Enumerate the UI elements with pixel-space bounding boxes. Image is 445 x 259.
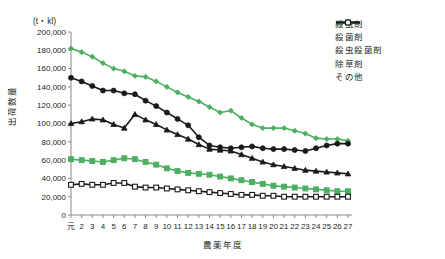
- data-point: [186, 123, 191, 128]
- x-tick-label: 7: [133, 222, 138, 231]
- data-point: [143, 98, 148, 103]
- data-point: [281, 125, 286, 130]
- x-tick-label: 11: [173, 222, 182, 231]
- data-point: [260, 146, 265, 151]
- data-point: [196, 171, 201, 176]
- data-point: [111, 181, 116, 186]
- x-tick-label: 13: [194, 222, 203, 231]
- data-point: [122, 91, 127, 96]
- data-point: [335, 189, 340, 194]
- data-point: [164, 110, 169, 115]
- y-tick-label: 100,000: [37, 119, 66, 128]
- x-tick-label: 4: [101, 222, 106, 231]
- data-point: [346, 189, 351, 194]
- series-除草剤: [69, 75, 351, 153]
- data-point: [250, 180, 255, 185]
- y-tick-label: 0: [62, 211, 67, 220]
- data-point: [132, 112, 138, 117]
- x-tick-label: 3: [90, 222, 95, 231]
- data-point: [239, 192, 244, 197]
- x-tick-label: 元: [67, 222, 75, 231]
- data-point: [79, 50, 84, 55]
- legend-label: 除草剤: [335, 57, 364, 69]
- data-point: [175, 116, 180, 121]
- data-point: [228, 176, 233, 181]
- y-tick-label: 80,000: [42, 138, 67, 147]
- data-point: [143, 74, 148, 79]
- chart-container: (t・kl) 出荷数量 農薬年度 020,00040,00060,00080,0…: [0, 0, 445, 259]
- data-point: [79, 158, 84, 163]
- data-point: [314, 187, 319, 192]
- data-point: [207, 172, 212, 177]
- data-point: [324, 188, 329, 193]
- data-point: [250, 144, 255, 149]
- data-point: [303, 148, 308, 153]
- chart-legend: 殺虫剤殺菌剤殺虫殺菌剤除草剤その他: [335, 16, 439, 83]
- data-point: [133, 184, 138, 189]
- data-point: [196, 189, 201, 194]
- data-point: [101, 160, 106, 165]
- data-point: [303, 186, 308, 191]
- data-point: [282, 147, 287, 152]
- series-殺虫剤: [68, 46, 350, 144]
- data-point: [207, 143, 212, 148]
- x-tick-label: 12: [184, 222, 193, 231]
- y-tick-label: 140,000: [37, 83, 66, 92]
- x-tick-label: 8: [143, 222, 148, 231]
- data-point: [324, 143, 329, 148]
- x-tick-label: 14: [205, 222, 214, 231]
- data-point: [292, 185, 297, 190]
- data-point: [282, 194, 287, 199]
- data-point: [218, 145, 223, 150]
- legend-label: 殺菌剤: [335, 30, 364, 42]
- legend-symbol-square-open-icon: [335, 16, 361, 29]
- x-tick-label: 17: [237, 222, 246, 231]
- data-point: [122, 69, 127, 74]
- data-point: [292, 194, 297, 199]
- x-tick-label: 25: [322, 222, 331, 231]
- data-point: [79, 181, 84, 186]
- data-point: [271, 193, 276, 198]
- y-tick-label: 180,000: [37, 46, 66, 55]
- data-point: [271, 125, 276, 130]
- legend-item-殺虫殺菌剤[interactable]: 殺虫殺菌剤: [335, 43, 439, 56]
- data-point: [260, 181, 265, 186]
- data-point: [228, 192, 233, 197]
- data-point: [271, 183, 276, 188]
- legend-item-殺菌剤[interactable]: 殺菌剤: [335, 29, 439, 42]
- x-tick-label: 18: [248, 222, 257, 231]
- x-tick-label: 27: [344, 222, 353, 231]
- legend-label: 殺虫殺菌剤: [335, 43, 383, 55]
- data-point: [250, 192, 255, 197]
- data-point: [175, 187, 180, 192]
- data-point: [303, 131, 308, 136]
- data-point: [228, 146, 233, 151]
- data-point: [154, 162, 159, 167]
- data-point: [101, 182, 106, 187]
- data-point: [313, 136, 318, 141]
- x-tick-label: 22: [290, 222, 299, 231]
- data-point: [292, 128, 297, 133]
- data-point: [143, 160, 148, 165]
- x-tick-label: 5: [111, 222, 116, 231]
- data-point: [90, 182, 95, 187]
- legend-item-その他[interactable]: その他: [335, 70, 439, 83]
- data-point: [303, 194, 308, 199]
- legend-item-除草剤[interactable]: 除草剤: [335, 56, 439, 69]
- legend-label: その他: [335, 70, 364, 82]
- data-point: [239, 145, 244, 150]
- x-tick-label: 21: [280, 222, 289, 231]
- data-point: [122, 181, 127, 186]
- x-tick-label: 6: [122, 222, 127, 231]
- data-point: [207, 190, 212, 195]
- data-point: [79, 79, 84, 84]
- data-point: [324, 136, 329, 141]
- y-tick-label: 60,000: [42, 156, 67, 165]
- data-point: [335, 141, 340, 146]
- data-point: [292, 148, 297, 153]
- data-point: [260, 125, 265, 130]
- data-point: [186, 171, 191, 176]
- x-tick-label: 20: [269, 222, 278, 231]
- data-point: [186, 188, 191, 193]
- data-point: [239, 178, 244, 183]
